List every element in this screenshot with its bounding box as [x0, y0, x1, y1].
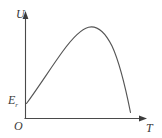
y-intercept-label: Er — [8, 94, 18, 109]
x-axis-label: T — [146, 122, 153, 134]
origin-label: O — [14, 120, 23, 132]
internal-energy-curve — [27, 27, 131, 113]
figure-container: U T O Er — [0, 0, 162, 138]
y-intercept-subscript: r — [15, 101, 18, 109]
y-axis-label: U — [16, 8, 25, 20]
